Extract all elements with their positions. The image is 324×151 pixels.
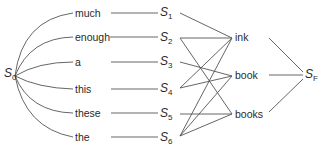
state-sub: 3	[168, 61, 172, 70]
state-s2: S2	[160, 30, 172, 49]
state-label: S	[160, 106, 168, 120]
edge-s1-ink	[180, 13, 232, 38]
word-the: the	[75, 131, 90, 143]
start-node: S0	[4, 66, 16, 85]
state-label: S	[160, 130, 168, 144]
state-sub: 4	[168, 88, 172, 97]
state-label: S	[160, 30, 168, 44]
edge-s0-enough	[15, 37, 73, 76]
word-these: these	[75, 107, 101, 119]
edge-s4-ink	[180, 38, 232, 88]
word-a: a	[75, 56, 81, 68]
edge-s0-much	[15, 13, 73, 76]
start-node-label: S	[4, 66, 12, 80]
state-s4: S4	[160, 81, 172, 100]
noun-books: books	[235, 108, 263, 120]
edge-books-sf	[269, 79, 303, 112]
state-s1: S1	[160, 5, 172, 24]
edge-s6-book	[180, 76, 232, 136]
start-node-sub: 0	[12, 73, 16, 82]
state-label: S	[160, 5, 168, 19]
state-s5: S5	[160, 106, 172, 125]
final-node: SF	[305, 67, 318, 86]
word-much: much	[75, 7, 101, 19]
edge-s6-books	[180, 114, 232, 136]
edge-s0-the	[15, 76, 73, 137]
edge-s0-these	[15, 76, 73, 113]
edge-s3-book	[180, 62, 232, 76]
state-s3: S3	[160, 54, 172, 73]
state-label: S	[160, 54, 168, 68]
edge-s0-a	[15, 62, 73, 76]
state-s6: S6	[160, 130, 172, 149]
word-enough: enough	[75, 31, 110, 43]
state-sub: 1	[168, 12, 172, 21]
noun-book: book	[235, 69, 258, 81]
word-this: this	[75, 83, 91, 95]
noun-ink: ink	[235, 31, 248, 43]
edge-s6-ink	[180, 38, 232, 136]
edge-ink-sf	[269, 38, 303, 72]
final-node-sub: F	[313, 74, 318, 83]
state-sub: 6	[168, 137, 172, 146]
edge-s2-books	[180, 38, 232, 114]
state-label: S	[160, 81, 168, 95]
edge-s0-this	[15, 76, 73, 89]
final-node-label: S	[305, 67, 313, 81]
state-sub: 5	[168, 113, 172, 122]
state-sub: 2	[168, 37, 172, 46]
